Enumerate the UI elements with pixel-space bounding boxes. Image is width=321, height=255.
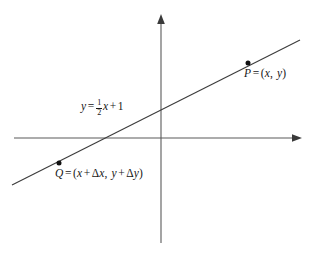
line-equation-label: y=12x+1: [81, 98, 124, 116]
coordinate-plane-svg: [0, 0, 321, 255]
equation-plus: +: [108, 100, 118, 112]
fraction-denominator: 2: [96, 108, 102, 117]
x-axis-arrowhead: [292, 134, 302, 142]
point-p-label: P=(x, y): [244, 68, 286, 80]
point-q-y: y: [112, 167, 117, 179]
point-q-close-paren: ): [139, 167, 143, 179]
point-p-close-paren: ): [282, 67, 286, 79]
equation-constant: 1: [118, 100, 124, 112]
point-q-plus-1: +: [82, 167, 92, 179]
x-axis: [14, 134, 302, 142]
line-graph-figure: y=12x+1 P=(x, y) Q=(x+Δx, y+Δy): [0, 0, 321, 255]
point-q-comma: ,: [104, 167, 107, 179]
point-q-label: Q=(x+Δx, y+Δy): [55, 168, 143, 180]
plotted-line: [12, 40, 300, 185]
point-marker-p: [246, 61, 251, 66]
y-axis-arrowhead: [157, 14, 165, 24]
point-q-plus-2: +: [117, 167, 127, 179]
equation-fraction: 12: [96, 99, 102, 117]
point-p-comma: ,: [270, 67, 273, 79]
fraction-numerator: 1: [96, 99, 102, 107]
equation-equals: =: [86, 100, 96, 112]
point-q-delta-y-symbol: Δ: [126, 167, 134, 179]
y-axis: [157, 14, 165, 243]
point-p-equals: =: [251, 67, 261, 79]
point-q-equals: =: [63, 167, 73, 179]
point-marker-q: [57, 161, 62, 166]
